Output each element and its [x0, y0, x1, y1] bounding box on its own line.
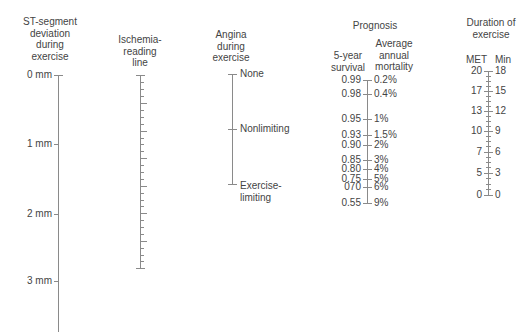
met-label: 20 [471, 66, 482, 76]
met-label: 17 [471, 86, 482, 96]
min-label: 0 [495, 190, 501, 200]
min-label: 18 [495, 66, 506, 76]
min-label: 15 [495, 86, 506, 96]
min-label: 12 [495, 106, 506, 116]
min-label: 6 [495, 147, 501, 157]
met-label: 13 [471, 106, 482, 116]
met-label: 7 [476, 147, 482, 157]
met-label: 5 [476, 168, 482, 178]
min-label: 9 [495, 126, 501, 136]
met-label: 10 [471, 126, 482, 136]
duration-ticks-graphic [0, 0, 531, 332]
min-label: 3 [495, 168, 501, 178]
met-label: 0 [476, 190, 482, 200]
